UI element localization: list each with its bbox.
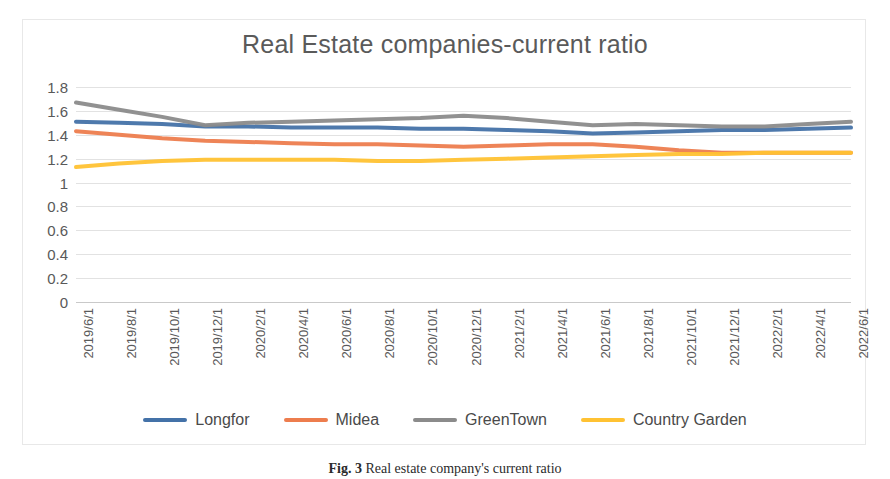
legend-item-greentown[interactable]: GreenTown — [413, 411, 547, 429]
x-tick-label: 2019/6/1 — [81, 308, 96, 359]
x-tick-label: 2019/8/1 — [124, 308, 139, 359]
caption-label: Fig. 3 — [328, 461, 361, 476]
series-line-country-garden — [76, 153, 851, 167]
legend-swatch-icon — [581, 418, 625, 422]
chart-legend: LongforMideaGreenTownCountry Garden — [0, 411, 890, 429]
legend-label: Midea — [336, 411, 380, 429]
caption-text: Real estate company's current ratio — [365, 461, 561, 476]
x-tick-label: 2021/2/1 — [512, 308, 527, 359]
x-tick-label: 2019/10/1 — [167, 308, 182, 366]
y-tick-label: 1.6 — [47, 102, 68, 119]
legend-swatch-icon — [143, 418, 187, 422]
x-tick-label: 2021/10/1 — [684, 308, 699, 366]
y-tick-label: 0.4 — [47, 246, 68, 263]
legend-item-longfor[interactable]: Longfor — [143, 411, 249, 429]
y-tick-label: 1.4 — [47, 126, 68, 143]
y-tick-label: 1 — [60, 174, 68, 191]
legend-item-midea[interactable]: Midea — [284, 411, 380, 429]
figure-container: Real Estate companies-current ratio 00.2… — [0, 0, 890, 479]
legend-item-country-garden[interactable]: Country Garden — [581, 411, 747, 429]
series-line-midea — [76, 131, 851, 153]
x-tick-label: 2020/4/1 — [296, 308, 311, 359]
series-lines — [76, 87, 851, 302]
x-tick-label: 2020/8/1 — [382, 308, 397, 359]
x-tick-label: 2021/4/1 — [555, 308, 570, 359]
x-tick-label: 2020/12/1 — [469, 308, 484, 366]
y-tick-label: 0 — [60, 294, 68, 311]
y-axis: 00.20.40.60.811.21.41.61.8 — [20, 87, 68, 302]
legend-swatch-icon — [284, 418, 328, 422]
x-tick-label: 2020/6/1 — [339, 308, 354, 359]
x-axis: 2019/6/12019/8/12019/10/12019/12/12020/2… — [76, 306, 851, 402]
x-tick-label: 2021/12/1 — [727, 308, 742, 366]
figure-caption: Fig. 3 Real estate company's current rat… — [0, 461, 890, 477]
x-tick-label: 2022/6/1 — [856, 308, 871, 359]
legend-label: GreenTown — [465, 411, 547, 429]
x-tick-label: 2019/12/1 — [210, 308, 225, 366]
y-tick-label: 0.6 — [47, 222, 68, 239]
chart-title: Real Estate companies-current ratio — [0, 30, 890, 59]
x-tick-label: 2021/6/1 — [598, 308, 613, 359]
legend-label: Longfor — [195, 411, 249, 429]
x-tick-label: 2022/4/1 — [813, 308, 828, 359]
x-axis-line — [76, 302, 851, 303]
legend-label: Country Garden — [633, 411, 747, 429]
x-tick-label: 2020/10/1 — [425, 308, 440, 366]
y-tick-label: 0.8 — [47, 198, 68, 215]
x-tick-label: 2020/2/1 — [253, 308, 268, 359]
x-tick-label: 2021/8/1 — [641, 308, 656, 359]
x-tick-label: 2022/2/1 — [770, 308, 785, 359]
y-tick-label: 1.8 — [47, 79, 68, 96]
y-tick-label: 0.2 — [47, 270, 68, 287]
legend-swatch-icon — [413, 418, 457, 422]
series-line-greentown — [76, 103, 851, 127]
y-tick-label: 1.2 — [47, 150, 68, 167]
plot-area — [76, 87, 851, 302]
